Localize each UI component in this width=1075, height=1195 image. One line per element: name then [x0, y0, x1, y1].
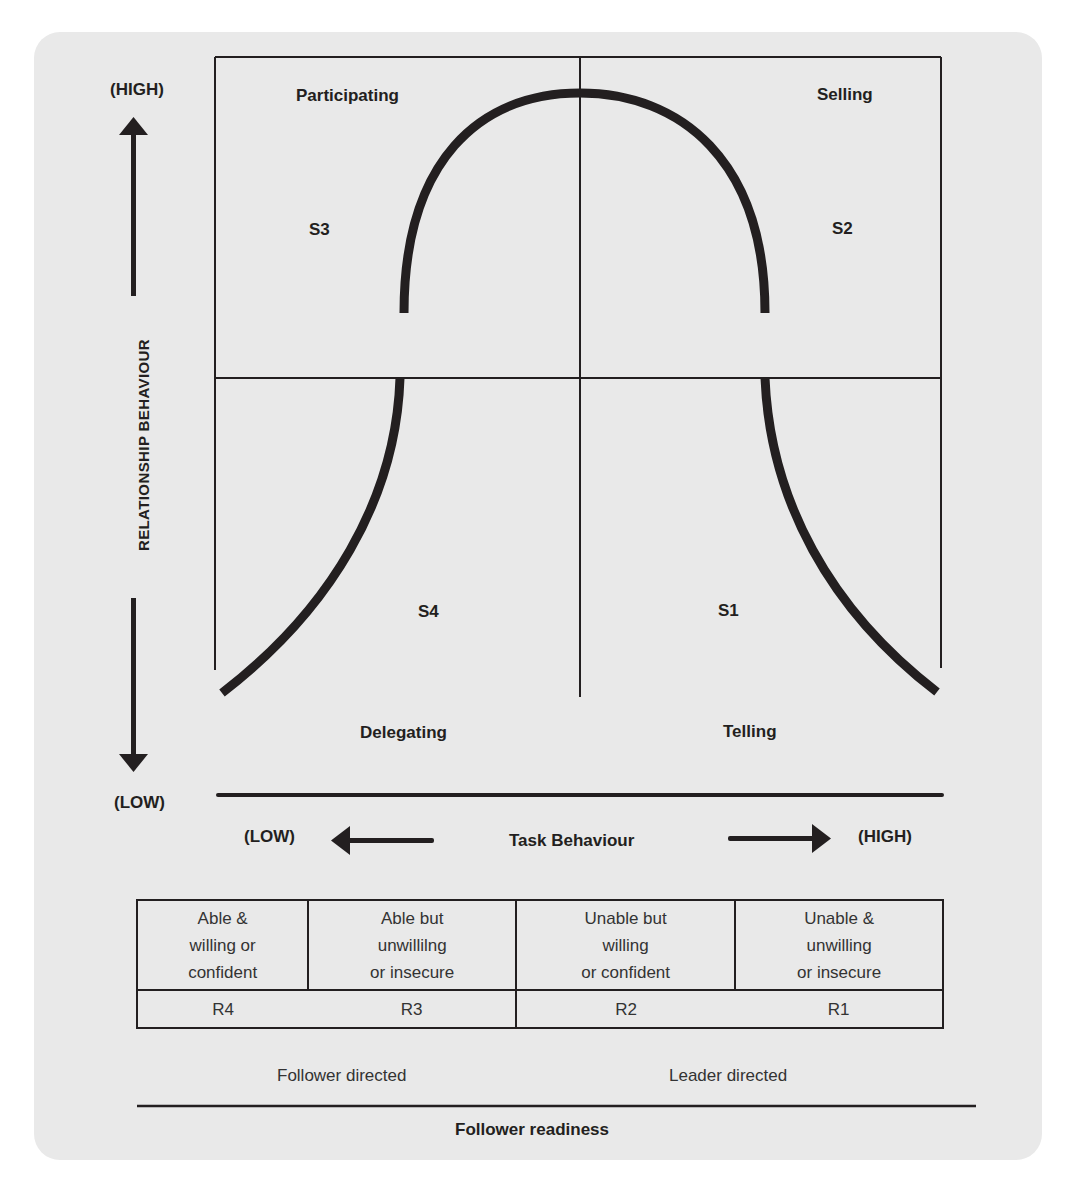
y-axis-high-label: (HIGH) — [110, 80, 164, 100]
cell-text: unwilling — [736, 932, 942, 959]
cell-text: Unable & — [736, 905, 942, 932]
follower-directed-label: Follower directed — [277, 1066, 406, 1086]
quadrant-id-s1: S1 — [718, 601, 739, 621]
readiness-cell-r2: Unable but willing or confident — [516, 900, 735, 990]
x-axis-high-label: (HIGH) — [858, 827, 912, 847]
readiness-code-r1: R1 — [735, 990, 943, 1028]
quadrant-style-selling: Selling — [817, 85, 873, 105]
x-axis-low-label: (LOW) — [244, 827, 295, 847]
cell-text: or insecure — [736, 959, 942, 986]
quadrant-id-s4: S4 — [418, 602, 439, 622]
cell-text: or insecure — [309, 959, 515, 986]
readiness-code-r4: R4 — [137, 990, 308, 1028]
cell-text: confident — [138, 959, 307, 986]
quadrant-style-delegating: Delegating — [360, 723, 447, 743]
quadrant-frame — [215, 57, 941, 697]
quadrant-id-s2: S2 — [832, 219, 853, 239]
readiness-code-r3: R3 — [308, 990, 516, 1028]
y-axis-low-label: (LOW) — [114, 793, 165, 813]
quadrant-id-s3: S3 — [309, 220, 330, 240]
arrow-left-icon — [331, 826, 434, 855]
readiness-description-row: Able & willing or confident Able but unw… — [137, 900, 943, 990]
readiness-code-r2: R2 — [516, 990, 735, 1028]
cell-text: willing or — [138, 932, 307, 959]
readiness-table: Able & willing or confident Able but unw… — [136, 899, 944, 1029]
y-axis-label: RELATIONSHIP BEHAVIOUR — [135, 339, 152, 551]
follower-readiness-label: Follower readiness — [455, 1120, 609, 1140]
quadrant-style-telling: Telling — [723, 722, 777, 742]
cell-text: unwillilng — [309, 932, 515, 959]
arrow-down-icon — [119, 598, 148, 772]
cell-text: or confident — [517, 959, 734, 986]
cell-text: willing — [517, 932, 734, 959]
arrow-right-icon — [728, 824, 831, 853]
arrow-up-icon — [119, 117, 148, 296]
quadrant-style-participating: Participating — [296, 86, 399, 106]
readiness-code-row: R4 R3 R2 R1 — [137, 990, 943, 1028]
readiness-cell-r4: Able & willing or confident — [137, 900, 308, 990]
readiness-cell-r1: Unable & unwilling or insecure — [735, 900, 943, 990]
cell-text: Able but — [309, 905, 515, 932]
cell-text: Able & — [138, 905, 307, 932]
x-axis-label: Task Behaviour — [509, 831, 634, 851]
leader-directed-label: Leader directed — [669, 1066, 787, 1086]
cell-text: Unable but — [517, 905, 734, 932]
readiness-cell-r3: Able but unwillilng or insecure — [308, 900, 516, 990]
